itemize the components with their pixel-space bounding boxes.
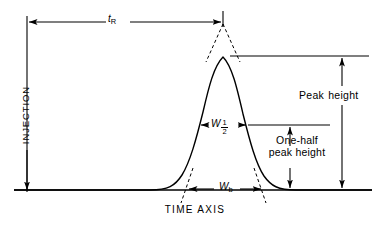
- width-base-subscript: b: [228, 185, 232, 194]
- retention-time-label: tR: [108, 13, 116, 27]
- chromatogram-peak-curve: [14, 57, 372, 190]
- base-tangent-right-dashed: [254, 168, 266, 203]
- apex-tangent-left-dashed: [206, 24, 223, 62]
- one-half-peak-height-label: One-half peak height: [254, 134, 340, 158]
- one-half-line-2: peak height: [254, 146, 340, 158]
- width-half-symbol: W: [211, 118, 220, 130]
- width-half-height-label: W12: [211, 116, 228, 132]
- one-half-line-1: One-half: [254, 134, 340, 146]
- fraction-denominator: 2: [221, 128, 227, 136]
- chromatogram-figure: INJECTION tR W12 Wb Peakheight One-half …: [0, 0, 377, 228]
- peak-height-word-1: Peak: [299, 89, 324, 101]
- width-base-label: Wb: [219, 181, 233, 195]
- time-axis-label: TIME AXIS: [130, 204, 260, 216]
- injection-axis-label: INJECTION: [21, 55, 32, 175]
- figure-canvas: [0, 0, 377, 228]
- peak-height-label: Peakheight: [299, 89, 359, 101]
- one-half-fraction: 12: [221, 119, 227, 135]
- peak-height-word-2: height: [328, 89, 358, 101]
- retention-time-subscript: R: [111, 17, 116, 26]
